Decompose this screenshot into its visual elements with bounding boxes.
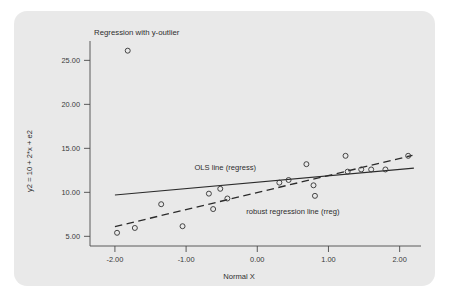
data-point-marker (304, 162, 309, 167)
y-tick-label: 10.00 (62, 188, 81, 197)
data-point-marker (115, 230, 120, 235)
data-point-marker (132, 225, 137, 230)
data-point-marker (343, 153, 348, 158)
data-point-marker (277, 180, 282, 185)
x-tick-label: 2.00 (392, 255, 406, 264)
data-point-marker (206, 191, 211, 196)
y-axis-label: y2 = 10 + 2*x + e2 (25, 130, 34, 192)
data-point-marker (311, 183, 316, 188)
fit-lines (115, 155, 414, 226)
data-point-marker (125, 48, 130, 53)
x-axis-label: Normal X (223, 272, 255, 281)
y-tick-label: 20.00 (62, 100, 81, 109)
data-point-marker (218, 186, 223, 191)
x-tick-label: 0.00 (250, 255, 264, 264)
x-tick-label: -1.00 (178, 255, 195, 264)
ols-fit-line (115, 168, 414, 195)
figure-panel: Regression with y-outlier y2 = 10 + 2*x … (14, 11, 435, 286)
line-annotations: OLS line (regress)robust regression line… (194, 163, 340, 216)
data-point-marker (211, 207, 216, 212)
data-point-marker (159, 202, 164, 207)
y-tick-label: 15.00 (62, 144, 81, 153)
line-annotation: robust regression line (rreg) (246, 207, 340, 216)
y-axis-ticks: 5.0010.0015.0020.0025.00 (62, 56, 91, 241)
x-tick-label: -2.00 (106, 255, 123, 264)
data-point-marker (369, 167, 374, 172)
x-tick-label: 1.00 (321, 255, 335, 264)
x-axis-ticks: -2.00-1.000.001.002.00 (106, 246, 406, 264)
data-point-marker (180, 224, 185, 229)
scatter-plot: Regression with y-outlier y2 = 10 + 2*x … (14, 11, 435, 286)
data-point-marker (225, 196, 230, 201)
line-annotation: OLS line (regress) (194, 163, 256, 172)
data-point-marker (345, 169, 350, 174)
chart-title: Regression with y-outlier (94, 28, 180, 37)
y-tick-label: 5.00 (66, 232, 80, 241)
y-tick-label: 25.00 (62, 56, 81, 65)
data-point-marker (312, 193, 317, 198)
